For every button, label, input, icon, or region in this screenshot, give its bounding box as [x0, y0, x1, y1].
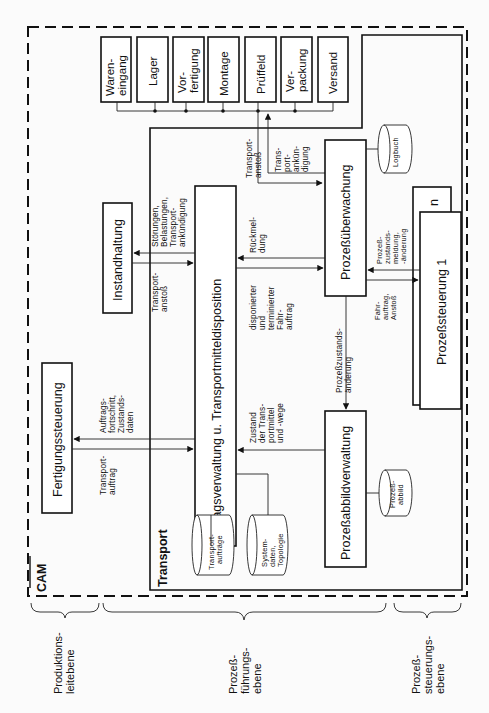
svg-text:Störungen,: Störungen,: [151, 205, 160, 247]
svg-text:ankündigung: ankündigung: [178, 198, 187, 247]
svg-text:Fertigungssteuerung: Fertigungssteuerung: [51, 382, 65, 497]
svg-text:anstoß: anstoß: [254, 152, 263, 178]
svg-text:fertigung: fertigung: [188, 48, 200, 93]
level-prozessfuehrungsebene: Prozeß-führungs-ebene: [227, 647, 263, 694]
svg-text:Transport-: Transport-: [99, 455, 108, 495]
diagram-canvas: CAM Transport Waren-eingang Lager Vor-fe…: [0, 0, 489, 713]
svg-text:Transport: Transport: [156, 529, 170, 587]
svg-text:eingang: eingang: [116, 55, 128, 96]
svg-text:Topologie: Topologie: [276, 534, 285, 567]
svg-text:auftrag: auftrag: [285, 303, 294, 330]
svg-text:Zustand: Zustand: [249, 412, 258, 443]
svg-text:Vor-: Vor-: [176, 72, 188, 93]
svg-text:daten: daten: [126, 411, 135, 433]
transport-label: Transport: [156, 529, 170, 587]
svg-text:-änderung: -änderung: [399, 229, 408, 265]
svg-text:packung: packung: [296, 49, 308, 92]
svg-text:ankün-: ankün-: [292, 146, 301, 172]
svg-text:port-: port-: [283, 154, 292, 172]
svg-text:ebene: ebene: [434, 663, 446, 694]
svg-text:Trans-: Trans-: [274, 147, 283, 172]
svg-text:terminierter: terminierter: [267, 286, 276, 330]
level-produktionsleitebene: Produktions-leitebene: [52, 632, 76, 694]
svg-text:Auftragsverwaltung u. Transpor: Auftragsverwaltung u. Transportmitteldis…: [210, 279, 224, 545]
svg-text:Versand: Versand: [327, 52, 339, 94]
svg-text:anstoß: anstoß: [160, 286, 169, 312]
svg-text:Transport-: Transport-: [151, 272, 160, 312]
svg-text:Prüffeld: Prüffeld: [255, 55, 267, 94]
svg-text:Prozeßzustands-: Prozeßzustands-: [335, 328, 344, 393]
svg-text:abbild: abbild: [396, 484, 405, 505]
svg-text:Transport-: Transport-: [245, 138, 254, 178]
svg-text:Lager: Lager: [147, 56, 159, 86]
svg-text:aufträge: aufträge: [215, 535, 224, 564]
svg-text:Prozeßüberwachung: Prozeßüberwachung: [339, 165, 353, 280]
svg-text:Anstoß: Anstoß: [389, 295, 398, 320]
svg-text:dung: dung: [258, 234, 267, 253]
svg-text:ebene: ebene: [251, 663, 263, 694]
svg-text:n: n: [427, 199, 441, 206]
svg-text:Fahr-: Fahr-: [276, 309, 285, 330]
svg-text:Produktions-: Produktions-: [52, 632, 64, 694]
svg-text:steuerungs-: steuerungs-: [422, 636, 434, 694]
svg-text:Auftrags-: Auftrags-: [99, 398, 108, 433]
level-prozesssteuerungsebene: Prozeß-steuerungs-ebene: [410, 636, 446, 694]
svg-text:portmittel: portmittel: [267, 407, 276, 443]
svg-text:Prozeßsteuerung 1: Prozeßsteuerung 1: [435, 259, 449, 365]
datastore-systemdaten: System-daten,Topologie: [236, 474, 288, 575]
cam-label: CAM: [35, 564, 49, 592]
svg-text:Prozeß-: Prozeß-: [227, 655, 239, 694]
svg-text:Logbuch: Logbuch: [391, 137, 400, 167]
svg-text:änderung: änderung: [344, 357, 353, 393]
svg-text:fortschritt,: fortschritt,: [108, 395, 117, 433]
svg-text:Transport-: Transport-: [169, 207, 178, 247]
svg-text:führungs-: führungs-: [239, 647, 251, 694]
station-bus: [117, 102, 333, 113]
svg-text:leitebene: leitebene: [64, 649, 76, 694]
svg-text:Rückmel-: Rückmel-: [249, 217, 258, 253]
svg-text:der Trans-: der Trans-: [258, 404, 267, 443]
svg-text:auftrag: auftrag: [108, 468, 117, 495]
datastore-prozessabbild: Prozeß-abbild: [366, 470, 412, 516]
svg-text:Belastungen,: Belastungen,: [160, 197, 169, 247]
svg-text:Waren-: Waren-: [104, 59, 116, 96]
svg-text:Ver-: Ver-: [284, 71, 296, 92]
svg-text:Instandhaltung: Instandhaltung: [111, 219, 125, 301]
svg-text:CAM: CAM: [35, 564, 49, 592]
station-boxes: Waren-eingang Lager Vor-fertigung Montag…: [101, 37, 348, 102]
level-braces: [31, 603, 461, 620]
svg-text:Prozeßabbildverwaltung: Prozeßabbildverwaltung: [339, 426, 353, 560]
svg-text:und: und: [258, 315, 267, 330]
datastore-transportauftraege: Transport-aufträge: [192, 515, 234, 575]
svg-text:Prozeß-: Prozeß-: [410, 655, 422, 694]
svg-text:disponierter: disponierter: [249, 285, 258, 330]
svg-text:digung: digung: [301, 146, 310, 172]
svg-text:und -wege: und -wege: [276, 403, 285, 443]
svg-text:Zustands-: Zustands-: [117, 395, 126, 433]
datastore-logbuch: Logbuch: [366, 125, 412, 173]
svg-text:Montage: Montage: [218, 51, 230, 96]
